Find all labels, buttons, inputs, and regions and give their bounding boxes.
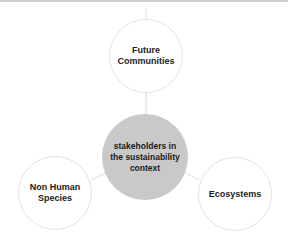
center-node: stakeholders in the sustainability conte…	[102, 114, 188, 200]
center-label: stakeholders in the sustainability conte…	[102, 141, 188, 174]
node-ecosystems: Ecosystems	[198, 157, 272, 231]
node-label: Non Human Species	[19, 182, 91, 204]
node-future-communities: Future Communities	[109, 19, 183, 93]
node-label: Ecosystems	[203, 189, 268, 200]
node-non-human-species: Non Human Species	[18, 156, 92, 230]
node-label: Future Communities	[110, 45, 182, 67]
